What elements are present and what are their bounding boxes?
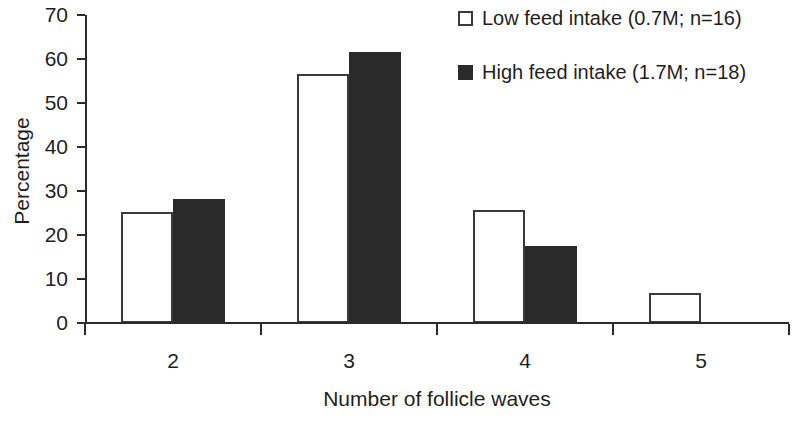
x-axis-tick xyxy=(436,324,438,335)
x-axis-tick-label: 4 xyxy=(495,350,555,372)
legend-item-label: Low feed intake (0.7M; n=16) xyxy=(482,8,742,29)
bar-low-feed-waves-3 xyxy=(297,74,349,323)
y-axis-tick xyxy=(77,234,85,236)
filled-square-icon xyxy=(458,65,473,80)
x-axis-tick-label: 3 xyxy=(319,350,379,372)
bar-low-feed-waves-4 xyxy=(473,210,525,323)
y-axis-title: Percentage xyxy=(11,91,33,251)
bar-high-feed-waves-4 xyxy=(525,246,577,323)
y-axis-tick xyxy=(77,278,85,280)
bar-low-feed-waves-2 xyxy=(121,212,173,323)
legend-item-low-feed-intake: Low feed intake (0.7M; n=16) xyxy=(458,8,742,29)
y-axis-tick-label: 60 xyxy=(12,48,68,69)
legend-item-high-feed-intake: High feed intake (1.7M; n=18) xyxy=(458,62,746,83)
y-axis-tick xyxy=(77,58,85,60)
y-axis-line xyxy=(85,15,87,324)
y-axis-tick xyxy=(77,146,85,148)
y-axis-tick-label: 10 xyxy=(12,268,68,289)
y-axis-tick xyxy=(77,190,85,192)
x-axis-tick-label: 2 xyxy=(143,350,203,372)
y-axis-tick-label: 0 xyxy=(12,312,68,333)
y-axis-tick-label: 70 xyxy=(12,4,68,25)
legend-item-label: High feed intake (1.7M; n=18) xyxy=(482,62,746,83)
bar-high-feed-waves-2 xyxy=(173,199,225,323)
x-axis-tick-label: 5 xyxy=(671,350,731,372)
y-axis-tick xyxy=(77,102,85,104)
open-square-icon xyxy=(458,11,473,26)
y-axis-tick xyxy=(77,14,85,16)
x-axis-tick xyxy=(612,324,614,335)
bar-high-feed-waves-3 xyxy=(349,52,401,323)
x-axis-tick xyxy=(260,324,262,335)
x-axis-tick xyxy=(84,324,86,335)
x-axis-title: Number of follicle waves xyxy=(85,388,789,410)
bar-low-feed-waves-5 xyxy=(649,293,701,323)
x-axis-tick xyxy=(788,324,790,335)
bar-chart-figure: 010203040506070 Percentage 2345 Number o… xyxy=(0,0,793,422)
